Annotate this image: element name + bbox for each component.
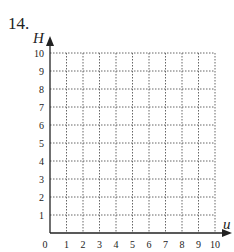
x-tick-label: 8: [180, 239, 185, 250]
x-tick-label: 2: [81, 239, 86, 250]
y-tick-label: 7: [39, 102, 44, 113]
axes: [46, 36, 232, 237]
x-tick-label: 1: [64, 239, 69, 250]
x-tick-label: 7: [163, 239, 168, 250]
x-tick-label: 6: [147, 239, 152, 250]
y-axis-arrow-icon: [46, 36, 54, 46]
x-tick-label: 4: [114, 239, 119, 250]
y-tick-label: 3: [39, 174, 44, 185]
y-tick-label: 2: [39, 192, 44, 203]
x-tick-label: 3: [97, 239, 102, 250]
x-tick-label: 5: [130, 239, 135, 250]
x-tick-labels: 012345678910: [43, 239, 221, 250]
y-tick-labels: 12345678910: [34, 48, 44, 221]
x-axis-arrow-icon: [222, 229, 232, 237]
x-tick-label: 9: [196, 239, 201, 250]
y-tick-label: 9: [39, 66, 44, 77]
y-tick-label: 1: [39, 210, 44, 221]
y-tick-label: 8: [39, 84, 44, 95]
coordinate-grid: 012345678910 12345678910: [0, 0, 234, 252]
y-tick-label: 6: [39, 120, 44, 131]
x-tick-label: 10: [210, 239, 220, 250]
grid-lines: [50, 53, 215, 233]
y-tick-label: 10: [34, 48, 44, 59]
y-tick-label: 5: [39, 138, 44, 149]
x-tick-label: 0: [43, 239, 48, 250]
y-tick-label: 4: [39, 156, 44, 167]
